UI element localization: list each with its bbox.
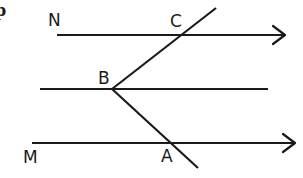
label-a: A [161, 146, 173, 166]
label-n: N [48, 10, 61, 30]
label-b: B [98, 68, 110, 88]
segment-bc [112, 8, 216, 89]
segment-ba [112, 89, 198, 168]
geometry-diagram: p N C B M A [0, 0, 303, 178]
label-c: C [170, 11, 182, 31]
corner-mark: p [0, 1, 6, 20]
label-m: M [23, 147, 38, 167]
